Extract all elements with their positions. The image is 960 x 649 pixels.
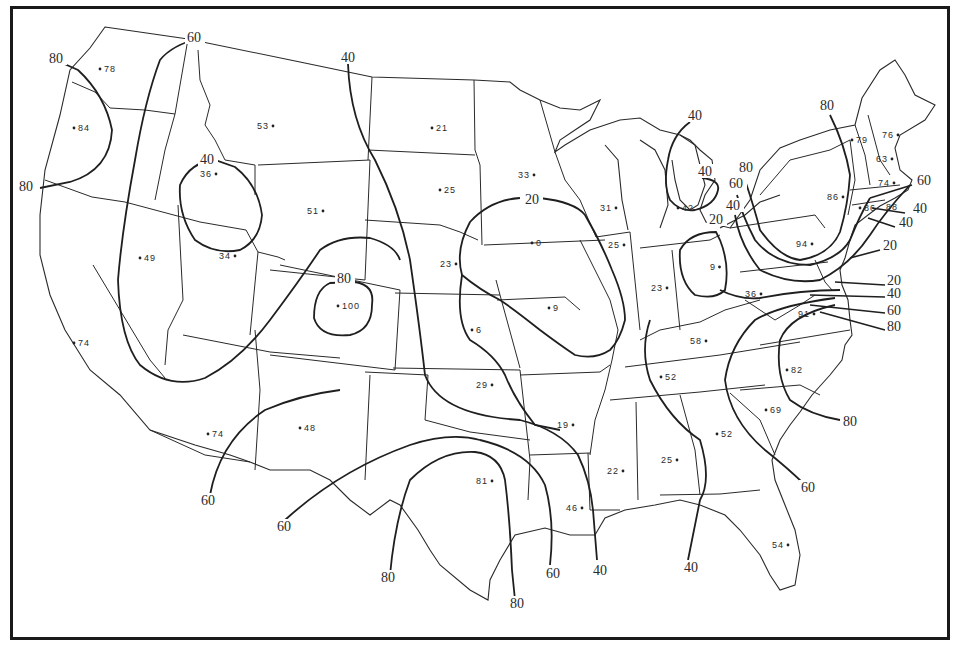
state-value-idaho: 36: [200, 169, 217, 179]
state-value-label: 74: [78, 338, 90, 348]
state-value-label: 91: [798, 309, 810, 319]
state-value-label: 33: [518, 170, 530, 180]
state-value-label: 74: [212, 429, 224, 439]
state-value-labels: 7884744936533451100744821252362981330919…: [73, 64, 900, 550]
contour-label: 80: [337, 271, 351, 286]
location-dot: [439, 189, 442, 192]
location-dot: [851, 139, 854, 142]
state-value-label: 54: [772, 540, 784, 550]
state-value-label: 52: [721, 429, 733, 439]
location-dot: [572, 424, 575, 427]
state-value-vermont: 79: [851, 135, 868, 145]
state-value-connecticut: 86: [859, 203, 876, 213]
contour-label: 40: [688, 108, 702, 123]
location-dot: [760, 293, 763, 296]
location-dot: [677, 207, 680, 210]
state-value-label: 23: [440, 259, 452, 269]
state-value-north-dakota: 21: [431, 123, 448, 133]
contour-label: 60: [201, 493, 215, 508]
state-value-label: 31: [600, 203, 612, 213]
contour-label: 60: [887, 303, 901, 318]
state-value-kansas: 6: [471, 325, 482, 335]
contour-label: 80: [820, 98, 834, 113]
state-value-ohio: 9: [710, 262, 721, 272]
state-value-new-mexico: 48: [299, 423, 316, 433]
contour-label: 60: [187, 30, 201, 45]
state-value-massachusetts: 74: [878, 178, 895, 188]
location-dot: [676, 459, 679, 462]
location-dot: [581, 507, 584, 510]
state-value-arkansas: 19: [557, 420, 574, 430]
location-dot: [272, 125, 275, 128]
state-value-michigan: 42: [677, 203, 694, 213]
contour-label: 40: [726, 198, 740, 213]
state-value-alabama: 25: [661, 455, 678, 465]
state-value-nevada: 49: [139, 253, 156, 263]
contour-label: 80: [510, 596, 524, 611]
state-value-oklahoma: 29: [476, 380, 493, 390]
state-value-mississippi: 22: [607, 466, 624, 476]
state-value-label: 88: [886, 202, 898, 212]
state-value-label: 19: [557, 420, 569, 430]
contour-lines: [40, 38, 912, 600]
state-value-label: 25: [661, 455, 673, 465]
state-value-virginia: 91: [798, 309, 815, 319]
contour-label: 80: [49, 51, 63, 66]
location-dot: [622, 470, 625, 473]
state-value-label: 36: [200, 169, 212, 179]
location-dot: [99, 68, 102, 71]
contour-label: 40: [684, 560, 698, 575]
contour-label: 60: [729, 176, 743, 191]
contour-label: 20: [709, 212, 723, 227]
state-value-label: 34: [219, 251, 231, 261]
contour-label: 80: [381, 570, 395, 585]
state-value-louisiana: 46: [566, 503, 583, 513]
state-value-label: 86: [827, 192, 839, 202]
contour-label: 40: [899, 215, 913, 230]
location-dot: [666, 287, 669, 290]
location-dot: [705, 340, 708, 343]
contour-label: 40: [593, 563, 607, 578]
location-dot: [891, 158, 894, 161]
state-value-new-york: 86: [827, 192, 844, 202]
location-dot: [299, 427, 302, 430]
contour-label: 40: [341, 50, 355, 65]
state-value-label: 6: [476, 325, 482, 335]
location-dot: [73, 127, 76, 130]
location-dot: [207, 433, 210, 436]
state-value-rhode-island: 88: [886, 202, 898, 212]
state-value-label: 51: [307, 206, 319, 216]
location-dot: [716, 433, 719, 436]
contour-label: 60: [801, 480, 815, 495]
location-dot: [337, 305, 340, 308]
state-value-label: 48: [304, 423, 316, 433]
state-value-missouri: 9: [548, 303, 559, 313]
contour-label: 40: [200, 152, 214, 167]
state-value-label: 53: [257, 121, 269, 131]
state-value-maine: 76: [882, 130, 899, 140]
state-value-label: 58: [690, 336, 702, 346]
state-value-iowa: 0: [531, 238, 542, 248]
state-value-pennsylvania: 94: [796, 239, 813, 249]
location-dot: [811, 243, 814, 246]
contour-label: 80: [739, 160, 753, 175]
state-value-washington: 78: [99, 64, 116, 74]
state-value-nebraska: 23: [440, 259, 457, 269]
state-value-arizona: 74: [207, 429, 224, 439]
state-value-label: 86: [864, 203, 876, 213]
state-value-tennessee: 52: [660, 372, 677, 382]
location-dot: [431, 127, 434, 130]
state-value-label: 23: [651, 283, 663, 293]
location-dot: [322, 210, 325, 213]
state-value-label: 100: [342, 301, 360, 311]
state-value-label: 0: [536, 238, 542, 248]
state-value-wyoming: 51: [307, 206, 324, 216]
contour-label: 20: [883, 238, 897, 253]
state-value-label: 49: [144, 253, 156, 263]
state-value-label: 74: [878, 178, 890, 188]
state-value-label: 82: [791, 365, 803, 375]
location-dot: [615, 207, 618, 210]
location-dot: [234, 255, 237, 258]
state-value-oregon: 84: [73, 123, 90, 133]
state-value-minnesota: 33: [518, 170, 535, 180]
